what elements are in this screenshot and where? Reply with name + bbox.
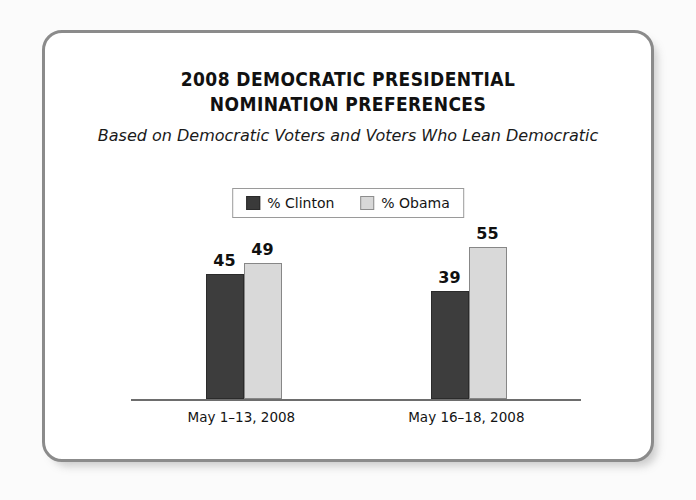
bar-group-2-bars: 39 55 bbox=[431, 226, 507, 399]
bar-group-1: 45 49 bbox=[206, 242, 282, 399]
bar-clinton-1 bbox=[206, 274, 244, 399]
page-title-line-2: NOMINATION PREFERENCES bbox=[45, 92, 651, 117]
x-axis-line bbox=[131, 399, 581, 401]
bar-item-obama-1: 49 bbox=[244, 242, 282, 399]
bar-groups: 45 49 39 bbox=[131, 233, 581, 399]
legend-label-obama: % Obama bbox=[381, 195, 449, 211]
bar-obama-2 bbox=[469, 247, 507, 399]
page-title-line-1: 2008 DEMOCRATIC PRESIDENTIAL bbox=[45, 67, 651, 92]
legend-item-obama: % Obama bbox=[360, 195, 449, 211]
legend-swatch-icon-obama bbox=[360, 196, 374, 210]
bar-group-1-bars: 45 49 bbox=[206, 242, 282, 399]
category-label-2: May 16–18, 2008 bbox=[408, 409, 524, 425]
chart-page: 2008 DEMOCRATIC PRESIDENTIAL NOMINATION … bbox=[0, 0, 696, 500]
bar-value-clinton-1: 45 bbox=[213, 253, 235, 269]
bar-obama-1 bbox=[244, 263, 282, 399]
bar-value-obama-1: 49 bbox=[251, 242, 273, 258]
bar-group-2: 39 55 bbox=[431, 226, 507, 399]
legend-swatch-icon-clinton bbox=[246, 196, 260, 210]
bar-item-obama-2: 55 bbox=[469, 226, 507, 399]
bar-clinton-2 bbox=[431, 291, 469, 399]
plot-area: 45 49 39 bbox=[131, 233, 581, 401]
bar-item-clinton-2: 39 bbox=[431, 270, 469, 399]
category-labels: May 1–13, 2008 May 16–18, 2008 bbox=[131, 409, 581, 425]
chart-subtitle: Based on Democratic Voters and Voters Wh… bbox=[45, 126, 651, 146]
legend-item-clinton: % Clinton bbox=[246, 195, 334, 211]
bar-item-clinton-1: 45 bbox=[206, 253, 244, 399]
category-label-1: May 1–13, 2008 bbox=[188, 409, 296, 425]
bar-value-obama-2: 55 bbox=[476, 226, 498, 242]
bar-value-clinton-2: 39 bbox=[438, 270, 460, 286]
chart-header: 2008 DEMOCRATIC PRESIDENTIAL NOMINATION … bbox=[45, 67, 651, 146]
chart-card: 2008 DEMOCRATIC PRESIDENTIAL NOMINATION … bbox=[42, 30, 654, 462]
legend-label-clinton: % Clinton bbox=[267, 195, 334, 211]
chart-legend: % Clinton % Obama bbox=[232, 188, 464, 218]
